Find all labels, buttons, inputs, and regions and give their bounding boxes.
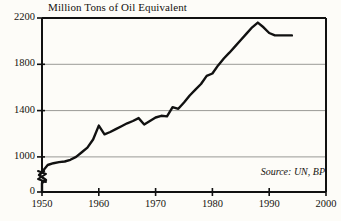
chart-container: Million Tons of Oil Equivalent 220018001… [0, 0, 341, 221]
x-axis-tick-label: 1990 [249, 198, 289, 209]
gridlines [42, 64, 326, 157]
chart-plot-area [0, 0, 341, 221]
x-axis-tick-label: 1950 [22, 198, 62, 209]
y-axis-tick-label: 2200 [1, 11, 35, 22]
x-axis-tick-label: 1980 [192, 198, 232, 209]
source-annotation: Source: UN, BP [261, 166, 325, 177]
data-series-line [39, 23, 292, 192]
x-axis-tick-label: 1970 [136, 198, 176, 209]
y-axis-tick-label: 1000 [1, 150, 35, 161]
y-axis-tick-label: 1800 [1, 57, 35, 68]
x-axis-tick-label: 1960 [79, 198, 119, 209]
y-axis-tick-label: 0 [1, 185, 35, 196]
y-axis-tick-label: 1400 [1, 104, 35, 115]
x-axis-tick-label: 2000 [306, 198, 341, 209]
